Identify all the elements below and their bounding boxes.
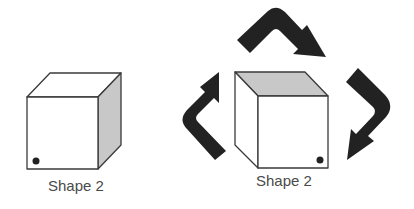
cube-right-front-face <box>258 96 328 168</box>
curved-arrow-right-icon <box>346 68 390 160</box>
shape-label-left: Shape 2 <box>48 177 104 194</box>
cube-left <box>27 73 121 169</box>
curved-arrow-top-icon <box>237 8 326 57</box>
curved-arrow-left-icon <box>183 72 227 160</box>
cube-left-dot <box>33 158 40 165</box>
shape-label-right: Shape 2 <box>256 172 312 189</box>
cube-right <box>235 72 328 168</box>
cube-right-dot <box>317 157 324 164</box>
